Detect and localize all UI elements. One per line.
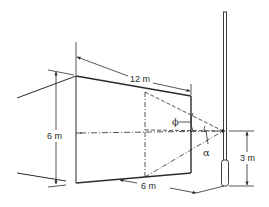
dimension-6m-width (120, 180, 224, 193)
label-3m: 3 m (240, 153, 255, 163)
dim-line-6m-left (120, 180, 137, 183)
sight-line-bottom (145, 131, 223, 177)
eye-point (222, 130, 225, 133)
building (17, 76, 191, 183)
diagram-canvas: 12 m 6 m 6 m 3 m ϕ α (0, 0, 269, 207)
lamp-pole (222, 12, 229, 186)
ext-top (48, 70, 74, 75)
label-phi: ϕ (172, 116, 179, 127)
label-6m-height: 6 m (47, 131, 62, 141)
sight-line-top (145, 92, 223, 131)
horizontal-axis-2 (145, 130, 223, 131)
left-wall-bottom-edge (17, 173, 66, 181)
ground-edge (76, 173, 191, 183)
ext-bottom (48, 185, 66, 187)
pole-shaft (224, 12, 227, 164)
ext-pole-base (196, 186, 224, 193)
alpha-leader (206, 131, 208, 144)
sight-lines (80, 92, 223, 177)
pole-base (222, 160, 229, 186)
label-6m-width: 6 m (141, 181, 156, 191)
horizontal-axis (80, 131, 223, 133)
label-alpha: α (203, 147, 210, 158)
dimension-6m-height (48, 70, 82, 187)
dim-line-12m-a (77, 57, 128, 76)
alpha-arc (204, 126, 205, 132)
dimension-12m (76, 42, 191, 95)
dim-line-6m-right (170, 188, 196, 193)
left-wall-top-edge (17, 76, 76, 98)
label-12m: 12 m (130, 74, 150, 84)
